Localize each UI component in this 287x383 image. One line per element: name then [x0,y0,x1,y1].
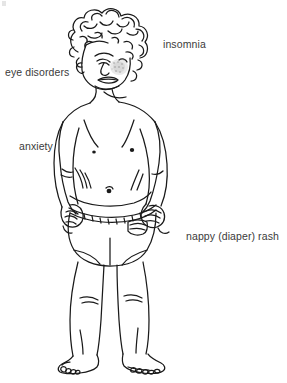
torso-marks [92,148,134,193]
feet [58,354,164,374]
label-eye-disorders: eye disorders [5,66,69,78]
label-nappy-diaper-rash: nappy (diaper) rash [186,230,279,242]
neck-and-shoulders [63,88,155,122]
legs [70,262,149,356]
symptom-illustration: insomnia eye disorders anxiety nappy (di… [0,0,287,383]
label-anxiety: anxiety [19,140,53,152]
hair-curls [69,9,148,81]
label-insomnia: insomnia [163,38,206,50]
torso [59,120,160,214]
navel-crease [106,187,113,189]
arms [54,122,167,207]
nappy [68,205,156,266]
cheek-shading [110,59,128,75]
hands [61,204,169,235]
child-line-drawing [0,0,287,383]
